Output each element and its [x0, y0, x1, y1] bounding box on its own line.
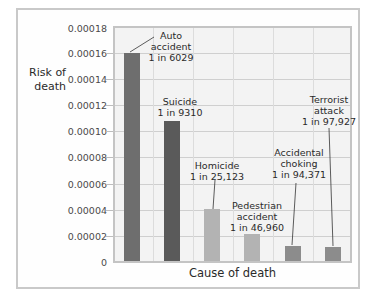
annotation-homicide: Homicide 1 in 25,123 [186, 160, 248, 182]
annotation-auto-accident: Auto accident 1 in 6029 [140, 30, 202, 63]
annotation-suicide: Suicide 1 in 9310 [150, 96, 210, 118]
annotation-line: Terrorist [297, 94, 361, 105]
annotation-pedestrian-accident: Pedestrian accident 1 in 46,960 [224, 200, 290, 233]
annotation-line: accident [224, 211, 290, 222]
annotation-terrorist-attack: Terrorist attack 1 in 97,927 [297, 94, 361, 127]
annotation-line: 1 in 94,371 [266, 169, 332, 180]
annotation-line: 1 in 46,960 [224, 222, 290, 233]
annotation-line: attack [297, 105, 361, 116]
annotation-line: Suicide [150, 96, 210, 107]
annotation-line: 1 in 97,927 [297, 116, 361, 127]
annotation-line: Homicide [186, 160, 248, 171]
annotation-line: accident [140, 41, 202, 52]
annotation-line: choking [266, 158, 332, 169]
annotation-accidental-choking: Accidental choking 1 in 94,371 [266, 147, 332, 180]
annotation-line: 1 in 6029 [140, 52, 202, 63]
annotation-line: Accidental [266, 147, 332, 158]
annotation-line: 1 in 25,123 [186, 171, 248, 182]
x-axis-label: Cause of death [113, 266, 352, 280]
annotation-line: 1 in 9310 [150, 107, 210, 118]
annotation-line: Auto [140, 30, 202, 41]
annotation-line: Pedestrian [224, 200, 290, 211]
